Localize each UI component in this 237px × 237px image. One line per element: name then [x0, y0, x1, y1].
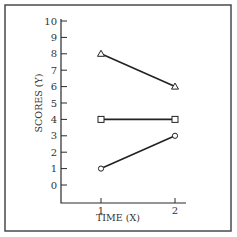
square-marker-icon — [172, 116, 178, 122]
circle-marker-icon — [172, 133, 177, 138]
y-tick-label: 1 — [51, 163, 57, 174]
series-line-circle — [101, 136, 175, 169]
y-tick-label: 9 — [51, 32, 57, 43]
x-axis-label: TIME (X) — [96, 212, 140, 223]
axes: 01234567891012 — [44, 16, 186, 217]
circle-marker-icon — [98, 166, 103, 171]
series-group — [98, 50, 179, 171]
y-tick-label: 10 — [44, 16, 57, 27]
y-tick-label: 3 — [51, 130, 57, 141]
y-tick-label: 6 — [51, 81, 57, 92]
series-line-triangle — [101, 54, 175, 87]
x-tick-label: 2 — [172, 205, 178, 216]
y-tick-label: 4 — [51, 114, 57, 125]
y-axis-label: SCORES (Y) — [33, 74, 44, 133]
axis-lines — [61, 19, 186, 203]
triangle-marker-icon — [98, 50, 105, 56]
y-tick-label: 0 — [51, 180, 57, 191]
y-tick-label: 8 — [51, 48, 57, 59]
y-tick-label: 5 — [51, 98, 57, 109]
y-tick-label: 2 — [51, 147, 57, 158]
y-tick-label: 7 — [51, 65, 57, 76]
square-marker-icon — [98, 116, 104, 122]
line-chart: 01234567891012 TIME (X) SCORES (Y) — [0, 0, 237, 237]
